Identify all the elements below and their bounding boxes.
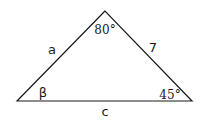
side-c-label: c xyxy=(101,104,108,119)
angle-left-label: β xyxy=(39,85,47,100)
side-7-label: 7 xyxy=(149,40,157,55)
angle-top-label: 80° xyxy=(94,23,115,37)
side-a-label: a xyxy=(48,42,56,57)
triangle-diagram: 80° a 7 β 45° c xyxy=(0,0,204,120)
angle-right-label: 45° xyxy=(159,88,180,102)
